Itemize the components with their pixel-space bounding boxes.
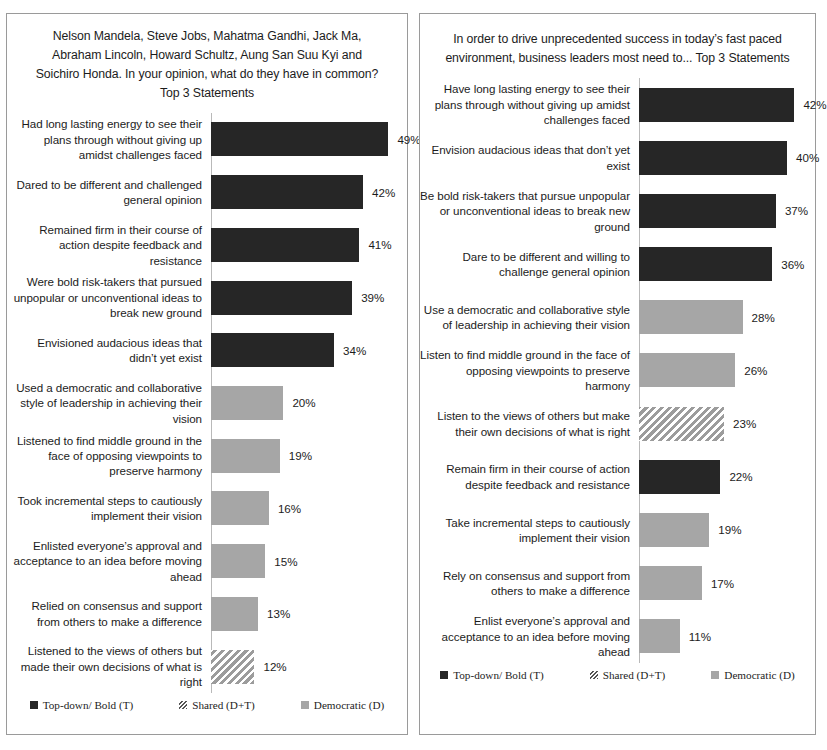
- bar-category-label: Listen to the views of others but make t…: [420, 408, 639, 439]
- bar-democratic[interactable]: [639, 300, 743, 334]
- plot-area-right: Have long lasting energy to see their pl…: [420, 78, 815, 663]
- legend-label: Shared (D+T): [603, 669, 666, 681]
- chart-title-left: Nelson Mandela, Steve Jobs, Mahatma Gand…: [7, 14, 407, 103]
- bar-row: Envisioned audacious ideas that didn’t y…: [7, 324, 407, 377]
- bar-track: 42%: [211, 166, 407, 219]
- bar-track: 49%: [211, 113, 421, 166]
- bar-democratic[interactable]: [211, 439, 280, 473]
- bar-democratic[interactable]: [639, 513, 709, 547]
- bar-category-label: Dared to be different and challenged gen…: [7, 177, 211, 208]
- bar-topdown[interactable]: [211, 228, 359, 262]
- bar-row: Listened to the views of others but made…: [7, 640, 407, 693]
- bar-row: Took incremental steps to cautiously imp…: [7, 482, 407, 535]
- bar-democratic[interactable]: [211, 544, 265, 578]
- legend-item-shared[interactable]: Shared (D+T): [590, 669, 666, 681]
- bar-value-label: 41%: [368, 238, 391, 251]
- legend-swatch-shared-icon: [590, 671, 598, 679]
- legend-swatch-democratic-icon: [301, 701, 309, 709]
- legend-item-shared[interactable]: Shared (D+T): [179, 699, 255, 711]
- legend-swatch-topdown-icon: [30, 701, 38, 709]
- bar-category-label: Enlisted everyone’s approval and accepta…: [7, 538, 211, 584]
- bar-category-label: Listened to the views of others but made…: [7, 643, 211, 689]
- bar-category-label: Had long lasting energy to see their pla…: [7, 116, 211, 162]
- bar-row: Remained firm in their course of action …: [7, 218, 407, 271]
- bar-row: Enlisted everyone’s approval and accepta…: [7, 535, 407, 588]
- bar-row: Enlist everyone’s approval and acceptanc…: [420, 610, 815, 663]
- legend-swatch-topdown-icon: [440, 671, 448, 679]
- bar-row: Used a democratic and collaborative styl…: [7, 377, 407, 430]
- bar-track: 19%: [211, 429, 407, 482]
- bar-value-label: 28%: [752, 311, 775, 324]
- bar-topdown[interactable]: [211, 281, 352, 315]
- bar-shared[interactable]: [639, 407, 724, 441]
- bar-democratic[interactable]: [639, 353, 735, 387]
- bar-category-label: Dare to be different and willing to chal…: [420, 249, 639, 280]
- legend-item-topdown[interactable]: Top-down/ Bold (T): [30, 699, 134, 711]
- bar-track: 13%: [211, 587, 407, 640]
- bar-category-label: Be bold risk-takers that pursue unpopula…: [420, 188, 639, 234]
- bar-track: 12%: [211, 640, 407, 693]
- bar-category-label: Relied on consensus and support from oth…: [7, 598, 211, 629]
- bar-row: Relied on consensus and support from oth…: [7, 587, 407, 640]
- legend-item-topdown[interactable]: Top-down/ Bold (T): [440, 669, 544, 681]
- bar-category-label: Listened to find middle ground in the fa…: [7, 433, 211, 479]
- bar-row: Use a democratic and collaborative style…: [420, 291, 815, 344]
- bar-row: Be bold risk-takers that pursue unpopula…: [420, 184, 815, 237]
- bar-value-label: 40%: [796, 151, 819, 164]
- bar-value-label: 19%: [289, 449, 312, 462]
- bar-topdown[interactable]: [211, 122, 388, 156]
- bar-rows-right: Have long lasting energy to see their pl…: [420, 78, 815, 663]
- bar-democratic[interactable]: [211, 386, 283, 420]
- bar-value-label: 37%: [785, 204, 808, 217]
- bar-category-label: Remained firm in their course of action …: [7, 222, 211, 268]
- bar-row: Listen to find middle ground in the face…: [420, 344, 815, 397]
- legend-item-democratic[interactable]: Democratic (D): [711, 669, 795, 681]
- bar-topdown[interactable]: [639, 141, 787, 175]
- legend-label: Top-down/ Bold (T): [43, 699, 134, 711]
- bar-row: Remain firm in their course of action de…: [420, 450, 815, 503]
- bar-democratic[interactable]: [211, 491, 269, 525]
- bar-value-label: 11%: [689, 630, 711, 643]
- bar-democratic[interactable]: [639, 619, 680, 653]
- bar-value-label: 16%: [278, 502, 301, 515]
- bar-track: 41%: [211, 218, 407, 271]
- bar-category-label: Rely on consensus and support from other…: [420, 568, 639, 599]
- legend-right: Top-down/ Bold (T)Shared (D+T)Democratic…: [420, 669, 815, 681]
- bar-topdown[interactable]: [639, 247, 772, 281]
- bar-value-label: 49%: [397, 133, 420, 146]
- bar-track: 40%: [639, 131, 819, 184]
- bar-row: Have long lasting energy to see their pl…: [420, 78, 815, 131]
- bar-category-label: Enlist everyone’s approval and acceptanc…: [420, 613, 639, 659]
- bar-democratic[interactable]: [639, 566, 702, 600]
- legend-swatch-shared-icon: [179, 701, 187, 709]
- bar-row: Envision audacious ideas that don’t yet …: [420, 131, 815, 184]
- legend-label: Shared (D+T): [192, 699, 255, 711]
- bar-category-label: Took incremental steps to cautiously imp…: [7, 493, 211, 524]
- bar-category-label: Were bold risk-takers that pursued unpop…: [7, 274, 211, 320]
- bar-value-label: 36%: [781, 258, 804, 271]
- bar-rows-left: Had long lasting energy to see their pla…: [7, 113, 407, 693]
- legend-swatch-democratic-icon: [711, 671, 719, 679]
- bar-topdown[interactable]: [639, 194, 776, 228]
- bar-category-label: Used a democratic and collaborative styl…: [7, 380, 211, 426]
- bar-category-label: Have long lasting energy to see their pl…: [420, 81, 639, 127]
- bar-track: 22%: [639, 450, 815, 503]
- bar-category-label: Envisioned audacious ideas that didn’t y…: [7, 335, 211, 366]
- chart-panel-right: In order to drive unprecedented success …: [419, 13, 816, 735]
- bar-track: 34%: [211, 324, 407, 377]
- bar-topdown[interactable]: [639, 88, 794, 122]
- plot-area-left: Had long lasting energy to see their pla…: [7, 113, 407, 693]
- bar-value-label: 15%: [274, 555, 297, 568]
- bar-topdown[interactable]: [211, 175, 363, 209]
- bar-track: 39%: [211, 271, 407, 324]
- bar-value-label: 19%: [718, 523, 741, 536]
- bar-democratic[interactable]: [211, 597, 258, 631]
- legend-item-democratic[interactable]: Democratic (D): [301, 699, 385, 711]
- bar-value-label: 23%: [733, 417, 756, 430]
- bar-topdown[interactable]: [211, 333, 334, 367]
- bar-topdown[interactable]: [639, 460, 720, 494]
- bar-shared[interactable]: [211, 650, 254, 684]
- bar-value-label: 42%: [803, 98, 826, 111]
- chart-panel-left: Nelson Mandela, Steve Jobs, Mahatma Gand…: [6, 13, 408, 735]
